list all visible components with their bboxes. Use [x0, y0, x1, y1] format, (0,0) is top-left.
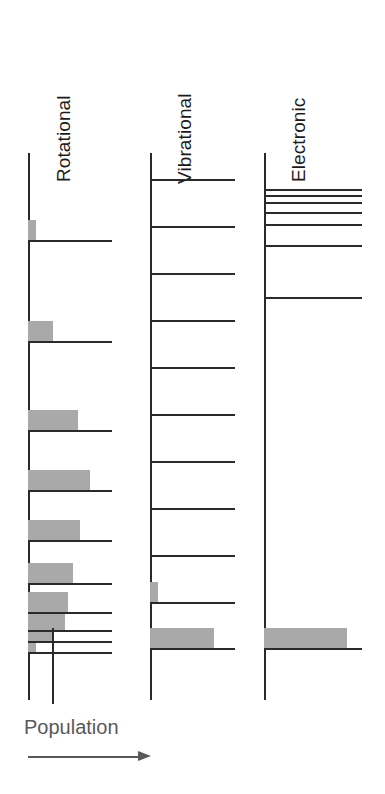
energy-level-line [28, 652, 112, 654]
energy-level-line [28, 240, 112, 242]
energy-level-population-figure: Rotational Vibrational Electronic Popula… [0, 0, 385, 794]
energy-level-line [150, 461, 235, 463]
population-bar [264, 628, 347, 648]
population-bar [150, 628, 214, 648]
energy-level-line [264, 195, 362, 197]
column-caption-vibrational: Vibrational [174, 93, 196, 184]
energy-level-line [150, 226, 235, 228]
population-bar [28, 321, 53, 341]
energy-level-line [150, 179, 235, 181]
column-caption-electronic: Electronic [288, 98, 310, 182]
population-bar [28, 632, 53, 641]
energy-level-line [28, 490, 112, 492]
energy-level-line [264, 245, 362, 247]
arrow-right-icon [138, 751, 151, 761]
energy-level-line [264, 224, 362, 226]
energy-level-line [150, 273, 235, 275]
population-bar [28, 614, 65, 630]
population-bar [28, 643, 36, 652]
energy-axis-vibrational [150, 153, 152, 700]
energy-level-line [264, 648, 362, 650]
energy-level-line [28, 583, 112, 585]
energy-level-line [28, 641, 112, 643]
population-bar [28, 520, 80, 540]
energy-axis-electronic [264, 153, 266, 700]
population-bar [28, 563, 73, 583]
energy-level-line [150, 320, 235, 322]
energy-level-line [28, 341, 112, 343]
population-axis-label: Population [24, 716, 119, 739]
energy-level-line [28, 430, 112, 432]
energy-level-line [150, 367, 235, 369]
energy-level-line [28, 540, 112, 542]
population-arrow-line [28, 756, 140, 758]
energy-level-line [150, 508, 235, 510]
energy-level-line [150, 602, 235, 604]
energy-level-line [150, 648, 235, 650]
energy-level-line [150, 555, 235, 557]
population-bar [28, 470, 90, 490]
energy-level-line [264, 297, 362, 299]
energy-level-line [28, 612, 112, 614]
column-caption-rotational: Rotational [53, 95, 75, 182]
energy-level-line [264, 202, 362, 204]
population-bar [28, 410, 78, 430]
energy-level-line [150, 414, 235, 416]
energy-level-line [264, 189, 362, 191]
population-bar [28, 592, 68, 612]
energy-level-line [28, 630, 112, 632]
rotational-leader-tick-1 [52, 628, 54, 704]
population-bar [150, 582, 158, 602]
energy-level-line [264, 212, 362, 214]
population-bar [28, 220, 36, 240]
